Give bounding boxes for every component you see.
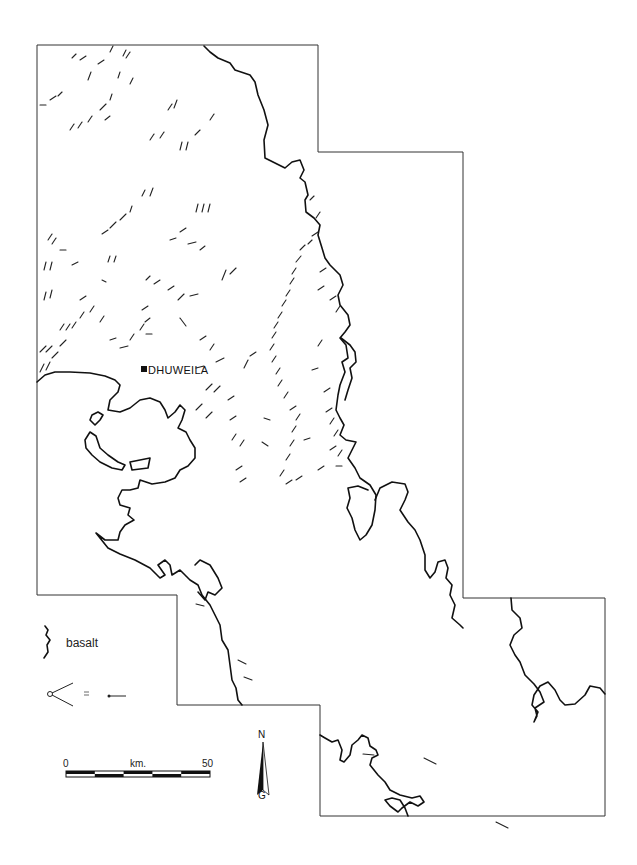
- scale-bar: [66, 771, 210, 777]
- kite-dot-line-icon: [108, 695, 127, 698]
- basalt-edge-south: [320, 735, 424, 816]
- grid-label: G: [258, 790, 266, 801]
- basalt-edge-west-lake: [130, 458, 150, 470]
- basalt-edge-northeast: [341, 338, 356, 400]
- scale-start-label: 0: [63, 758, 69, 769]
- basalt-edge-west-island: [90, 412, 103, 425]
- kite-equals-symbol: [84, 692, 89, 695]
- site-label-dhuweila: DHUWEILA: [148, 364, 208, 376]
- basalt-edge-southeast: [510, 598, 605, 722]
- basalt-edge-southwest: [195, 560, 222, 600]
- study-area-boundary: [37, 45, 605, 816]
- basalt-legend-icon: [44, 626, 50, 658]
- scale-unit-label: km.: [130, 758, 146, 769]
- basalt-edge-west: [37, 372, 242, 705]
- site-marker-dhuweila: [141, 366, 147, 372]
- basalt-edge-east: [204, 46, 376, 540]
- basalt-edge-east-2: [375, 482, 463, 628]
- kite-legend-icon: [48, 683, 74, 706]
- basalt-edge-west-inlet: [85, 432, 125, 470]
- legend-basalt-label: basalt: [66, 636, 98, 650]
- north-arrow: [257, 742, 269, 795]
- scale-end-label: 50: [202, 758, 213, 769]
- map-canvas: [0, 0, 637, 865]
- north-label: N: [258, 729, 265, 740]
